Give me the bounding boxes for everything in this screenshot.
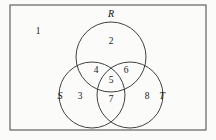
set-label-R: R [107,8,114,19]
region-label-T-only: 8 [145,91,150,101]
venn-diagram-figure: R S T 1 2 3 4 5 6 7 8 [0,0,216,140]
venn-diagram-canvas: R S T 1 2 3 4 5 6 7 8 [0,0,216,140]
region-label-R-S-and-T: 5 [109,75,114,85]
region-label-R-only: 2 [109,36,114,46]
region-label-S-only: 3 [78,91,83,101]
region-label-outside: 1 [36,26,41,36]
region-label-R-and-S: 4 [94,65,99,75]
region-label-S-and-T: 7 [109,94,114,104]
universal-set-rectangle [10,5,206,130]
region-label-R-and-T: 6 [124,65,129,75]
set-label-S: S [58,90,63,101]
